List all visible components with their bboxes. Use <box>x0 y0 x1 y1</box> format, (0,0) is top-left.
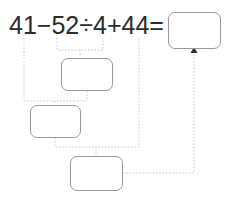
step-2-box[interactable] <box>30 105 81 138</box>
step-1-box-value <box>62 59 112 90</box>
connector-step2-to-step3 <box>55 138 96 155</box>
equation-token-op-equals: = <box>149 11 164 39</box>
answer-box[interactable] <box>168 12 221 49</box>
connector-step3-to-answer <box>123 52 194 173</box>
step-3-box[interactable] <box>70 156 123 191</box>
answer-box-value <box>169 13 220 48</box>
step-3-box-value <box>71 157 122 190</box>
step-2-box-value <box>31 106 80 137</box>
equation-token-op-minus: − <box>37 11 52 39</box>
connector-44-down <box>96 38 139 147</box>
equation-token-num-4: 4 <box>93 11 107 39</box>
step-1-box[interactable] <box>61 58 113 91</box>
equation-token-op-plus: + <box>107 11 122 39</box>
equation-token-op-divide: ÷ <box>79 11 93 39</box>
equation-token-num-44: 44 <box>121 11 149 39</box>
equation-token-num-52: 52 <box>51 11 79 39</box>
order-of-operations-worksheet: 41−52÷4+44= <box>0 0 230 200</box>
equation-expression: 41−52÷4+44= <box>9 10 164 40</box>
equation-token-num-41: 41 <box>9 11 37 39</box>
